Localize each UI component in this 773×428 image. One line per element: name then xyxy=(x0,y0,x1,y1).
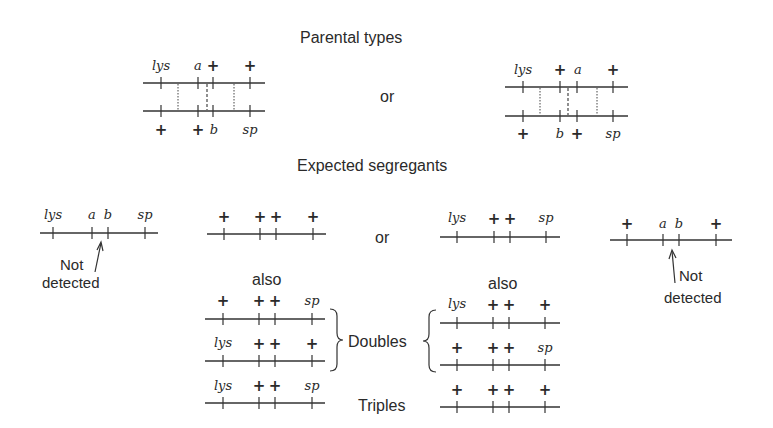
allele-label: + xyxy=(270,208,283,226)
doubles-right-chromosome-2: + + + sp xyxy=(440,339,560,371)
svg-text:+: + xyxy=(253,292,266,310)
heading-parental-types: Parental types xyxy=(300,29,402,46)
svg-text:+: + xyxy=(253,335,266,353)
segregant-chromosome: lys a b sp xyxy=(40,207,158,239)
svg-text:+: + xyxy=(269,377,282,395)
svg-text:lys: lys xyxy=(214,378,233,393)
heading-expected-segregants: Expected segregants xyxy=(297,157,447,174)
allele-label: sp xyxy=(606,126,622,141)
allele-label: lys xyxy=(152,58,171,73)
allele-label: + xyxy=(207,57,220,75)
svg-text:sp: sp xyxy=(305,293,321,308)
not-detected-annotation-left: Not detected xyxy=(42,242,103,291)
also-label-left: also xyxy=(252,271,281,288)
allele-label: sp xyxy=(539,210,555,225)
allele-label: + xyxy=(571,125,584,143)
allele-label: + xyxy=(254,208,267,226)
doubles-label: Doubles xyxy=(348,333,407,350)
allele-label: a xyxy=(574,62,582,77)
allele-label: b xyxy=(104,207,112,222)
segregant-chromosome: lys + + sp xyxy=(440,210,560,243)
triples-left-chromosome: lys + + sp xyxy=(205,377,325,409)
segregant-chromosome: + a b + xyxy=(610,215,732,246)
allele-label: + xyxy=(621,215,634,233)
allele-label: + xyxy=(488,210,501,228)
allele-label: a xyxy=(88,207,96,222)
triples-right-chromosome: + + + + xyxy=(440,381,560,413)
allele-label: a xyxy=(194,58,202,73)
also-label-right: also xyxy=(488,275,517,292)
allele-label: + xyxy=(307,208,320,226)
svg-text:sp: sp xyxy=(305,378,321,393)
parental-right-pair: lys + a + + b + sp xyxy=(505,61,628,143)
allele-label: + xyxy=(504,210,517,228)
brace-left xyxy=(330,309,343,371)
svg-text:lys: lys xyxy=(214,335,233,350)
not-detected-annotation-right: Not detected xyxy=(664,250,722,306)
svg-text:detected: detected xyxy=(664,289,722,306)
allele-label: + xyxy=(554,61,567,79)
brace-right xyxy=(423,310,436,372)
doubles-left-chromosome-2: lys + + + xyxy=(205,335,325,367)
triples-label: Triples xyxy=(358,397,405,414)
svg-text:+: + xyxy=(539,381,552,399)
svg-text:+: + xyxy=(539,296,552,314)
allele-label: sp xyxy=(138,207,154,222)
allele-label: lys xyxy=(44,207,63,222)
svg-text:+: + xyxy=(451,339,464,357)
svg-text:+: + xyxy=(253,377,266,395)
recombination-diagram: Parental types Expected segregants or or… xyxy=(0,0,773,428)
allele-label: + xyxy=(607,61,620,79)
parental-left-pair: lys a + + + + b sp xyxy=(143,57,265,139)
doubles-left-chromosome-1: + + + sp xyxy=(205,292,325,325)
svg-text:lys: lys xyxy=(448,296,467,311)
svg-text:+: + xyxy=(217,292,230,310)
doubles-right-chromosome-1: lys + + + xyxy=(440,296,560,329)
allele-label: sp xyxy=(243,122,259,137)
allele-label: + xyxy=(710,215,723,233)
svg-text:+: + xyxy=(487,381,500,399)
svg-text:sp: sp xyxy=(538,340,554,355)
svg-text:+: + xyxy=(451,381,464,399)
svg-text:+: + xyxy=(503,381,516,399)
or-connector-top: or xyxy=(380,88,395,105)
svg-text:+: + xyxy=(306,335,319,353)
svg-text:+: + xyxy=(269,292,282,310)
svg-text:detected: detected xyxy=(42,274,100,291)
svg-text:+: + xyxy=(503,296,516,314)
svg-text:+: + xyxy=(487,339,500,357)
allele-label: + xyxy=(192,121,205,139)
allele-label: lys xyxy=(448,210,467,225)
allele-label: + xyxy=(218,208,231,226)
allele-label: + xyxy=(517,125,530,143)
allele-label: b xyxy=(675,216,683,231)
svg-text:Not: Not xyxy=(60,256,84,273)
svg-text:Not: Not xyxy=(679,267,703,284)
allele-label: b xyxy=(556,126,564,141)
segregant-chromosome: + + + + xyxy=(207,208,326,240)
allele-label: + xyxy=(155,121,168,139)
allele-label: b xyxy=(210,122,218,137)
allele-label: + xyxy=(244,57,257,75)
svg-text:+: + xyxy=(269,335,282,353)
allele-label: a xyxy=(659,216,667,231)
allele-label: lys xyxy=(514,62,533,77)
svg-text:+: + xyxy=(487,296,500,314)
svg-text:+: + xyxy=(503,339,516,357)
or-connector-middle: or xyxy=(375,229,390,246)
